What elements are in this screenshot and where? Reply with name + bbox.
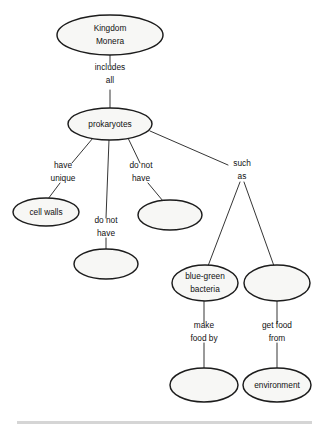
node-shape xyxy=(170,368,238,402)
link-label-get-food-from: get food from xyxy=(262,320,292,343)
node-label-line2: Monera xyxy=(96,36,125,46)
link-label-line2: have xyxy=(97,228,115,238)
concept-map-page: Kingdom Monera includes all prokaryotes … xyxy=(0,0,329,445)
node-shape xyxy=(244,265,310,301)
node-shape xyxy=(74,249,138,279)
node-label-line1: cell walls xyxy=(29,207,62,217)
footer-caption xyxy=(19,432,309,445)
link-label-line1: do not xyxy=(129,160,153,170)
link-label-such-as: such as xyxy=(233,158,251,181)
node-label-line1: environment xyxy=(254,380,300,390)
node-label-line1: prokaryotes xyxy=(88,119,131,129)
link-label-do-not-have-2: do not have xyxy=(94,215,118,238)
node-blank-do-not-have-1[interactable] xyxy=(138,200,202,230)
node-blank-such-as[interactable] xyxy=(244,265,310,301)
link-label-line2: have xyxy=(132,173,150,183)
node-environment[interactable]: environment xyxy=(243,368,311,402)
edge-prokaryotes-to-such-as xyxy=(150,131,228,165)
node-prokaryotes[interactable]: prokaryotes xyxy=(68,108,152,140)
link-label-line2: all xyxy=(106,75,114,85)
node-blank-do-not-have-2[interactable] xyxy=(74,249,138,279)
node-cell-walls[interactable]: cell walls xyxy=(13,198,79,226)
edge-such-as-to-blank xyxy=(244,182,274,266)
node-shape xyxy=(138,200,202,230)
concept-map-diagram: Kingdom Monera includes all prokaryotes … xyxy=(0,0,329,445)
edge-prokaryotes-to-do-not-have-2 xyxy=(106,140,109,218)
node-shape xyxy=(57,15,163,55)
link-label-line1: such xyxy=(233,158,251,168)
edge-prokaryotes-to-have-unique xyxy=(72,138,93,163)
link-label-line1: get food xyxy=(262,320,292,330)
node-label-line1: blue-green xyxy=(185,271,225,281)
node-blue-green-bacteria[interactable]: blue-green bacteria xyxy=(172,265,238,301)
link-label-do-not-have-1: do not have xyxy=(129,160,153,183)
link-label-make-food-by: make food by xyxy=(190,320,218,343)
link-label-line2: food by xyxy=(190,333,218,343)
link-label-line1: have xyxy=(54,160,72,170)
node-label-line1: Kingdom xyxy=(94,23,127,33)
link-label-line1: includes xyxy=(95,62,125,72)
node-label-line2: bacteria xyxy=(190,284,220,294)
edge-have-unique-to-cell-walls xyxy=(48,183,60,199)
edge-do-not-have-1-to-blank xyxy=(148,183,163,201)
node-kingdom-monera[interactable]: Kingdom Monera xyxy=(57,15,163,55)
link-label-line1: do not xyxy=(94,215,118,225)
node-blank-make-food-by[interactable] xyxy=(170,368,238,402)
link-label-line1: make xyxy=(194,320,215,330)
edge-such-as-to-blue-green xyxy=(208,182,240,266)
link-label-line2: as xyxy=(238,171,247,181)
footer-divider-rule xyxy=(17,421,312,424)
link-label-includes-all: includes all xyxy=(95,62,125,85)
link-label-have-unique: have unique xyxy=(51,160,76,183)
link-label-line2: unique xyxy=(51,173,76,183)
link-label-line2: from xyxy=(269,333,286,343)
